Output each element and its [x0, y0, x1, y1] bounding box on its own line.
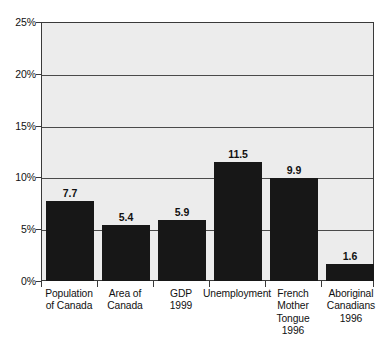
bar-value-aboriginal-canadians: 1.6 [326, 251, 374, 262]
bar-aboriginal-canadians [326, 264, 374, 281]
x-cat-label-aboriginal-canadians: Aboriginal Canadians 1996 [316, 288, 386, 325]
bar-value-unemployment: 11.5 [214, 149, 262, 160]
bar-value-area-of-canada: 5.4 [102, 212, 150, 223]
bar-value-population-of-canada: 7.7 [46, 188, 94, 199]
x-tick-mark-3 [209, 281, 210, 287]
y-tick-label-0: 0% [2, 276, 36, 286]
bar-population-of-canada [46, 201, 94, 281]
y-tick-label-5: 5% [2, 224, 36, 234]
y-tick-label-10: 10% [2, 172, 36, 182]
x-tick-mark-5 [321, 281, 322, 287]
bar-value-french-mother-tongue: 9.9 [270, 165, 318, 176]
bar-value-gdp-1999: 5.9 [158, 207, 206, 218]
x-cat-line: 1999 [148, 300, 214, 312]
bars-layer [41, 22, 374, 281]
x-tick-mark-1 [97, 281, 98, 287]
bar-unemployment [214, 162, 262, 281]
bar-gdp-1999 [158, 220, 206, 281]
bar-area-of-canada [102, 225, 150, 281]
x-tick-mark-2 [153, 281, 154, 287]
bar-chart: 25% 20% 15% 10% 5% 0% 7.7 5.4 5.9 11.5 9… [0, 0, 392, 342]
x-cat-line: Canadians [316, 300, 386, 312]
x-tick-mark-0 [41, 281, 42, 287]
x-cat-line: Aboriginal [316, 288, 386, 300]
y-tick-label-15: 15% [2, 121, 36, 131]
bar-french-mother-tongue [270, 178, 318, 281]
x-tick-mark-4 [265, 281, 266, 287]
x-cat-line: 1996 [316, 313, 386, 325]
x-cat-line: 1996 [260, 325, 326, 337]
y-tick-label-20: 20% [2, 69, 36, 79]
x-tick-mark-6 [373, 281, 374, 287]
y-tick-label-25: 25% [2, 17, 36, 27]
